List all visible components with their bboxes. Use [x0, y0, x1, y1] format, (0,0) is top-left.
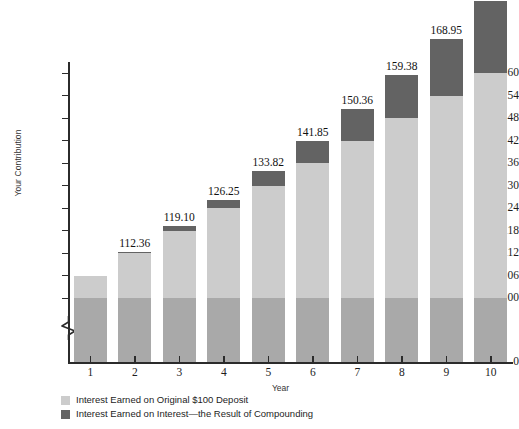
bar-year-7: 150.36 [341, 109, 374, 363]
bar-segment-compound-interest [341, 109, 374, 140]
x-tick-mark [312, 356, 313, 363]
legend-swatch-interest-on-deposit [61, 396, 70, 405]
x-tick-label: 5 [248, 367, 288, 379]
x-axis-title: Year [0, 383, 519, 393]
bar-year-5: 133.82 [252, 171, 285, 363]
legend-swatch-compound-interest [61, 410, 70, 419]
x-tick-label: 3 [159, 367, 199, 379]
bar-year-3: 119.10 [163, 226, 196, 363]
x-tick-mark [268, 356, 269, 363]
bar-value-label: 168.95 [430, 25, 462, 37]
bar-segment-interest-on-deposit [430, 96, 463, 299]
x-tick-label: 4 [204, 367, 244, 379]
x-tick-label: 2 [115, 367, 155, 379]
bar-year-8: 159.38 [385, 75, 418, 363]
bar-year-9: 168.95 [430, 39, 463, 363]
bar-segment-interest-on-deposit [163, 231, 196, 299]
bar-segment-principal [385, 298, 418, 363]
plot-area: 112.36119.10126.25133.82141.85150.36159.… [68, 62, 513, 363]
bar-segment-principal [74, 298, 107, 363]
bar-segment-compound-interest [474, 1, 507, 73]
bar-year-1 [74, 276, 107, 364]
bar-segment-interest-on-deposit [385, 118, 418, 298]
y-axis-title: Your Contribution [13, 103, 23, 223]
legend-item-compound-interest: Interest Earned on Interest—the Result o… [61, 407, 313, 421]
bar-year-4: 126.25 [207, 200, 240, 363]
x-tick-mark [490, 356, 491, 363]
x-tick-mark [90, 356, 91, 363]
bar-segment-compound-interest [163, 226, 196, 230]
bar-segment-interest-on-deposit [252, 186, 285, 299]
bar-segment-interest-on-deposit [296, 163, 329, 298]
x-tick-label: 8 [382, 367, 422, 379]
bar-value-label: 159.38 [386, 61, 418, 73]
bar-segment-principal [474, 298, 507, 363]
bar-year-10: 179.08 [474, 1, 507, 363]
x-tick-mark [446, 356, 447, 363]
bar-value-label: 126.25 [208, 186, 240, 198]
x-tick-label: 1 [70, 367, 110, 379]
bar-year-2: 112.36 [118, 252, 151, 363]
bar-segment-compound-interest [296, 141, 329, 163]
bar-segment-principal [430, 298, 463, 363]
bar-segment-compound-interest [207, 200, 240, 208]
bar-segment-interest-on-deposit [74, 276, 107, 299]
bar-segment-compound-interest [252, 171, 285, 185]
legend-label-interest-on-deposit: Interest Earned on Original $100 Deposit [76, 395, 248, 405]
bar-segment-principal [341, 298, 374, 363]
bar-value-label: 112.36 [119, 238, 150, 250]
x-tick-label: 10 [471, 367, 511, 379]
bar-segment-principal [163, 298, 196, 363]
bar-segment-compound-interest [118, 252, 151, 253]
bar-segment-compound-interest [385, 75, 418, 118]
x-tick-mark [134, 356, 135, 363]
bar-value-label: 133.82 [252, 157, 284, 169]
legend-label-compound-interest: Interest Earned on Interest—the Result o… [76, 409, 313, 419]
bar-value-label: 141.85 [297, 127, 329, 139]
bar-segment-principal [296, 298, 329, 363]
legend-item-interest-on-deposit: Interest Earned on Original $100 Deposit [61, 393, 313, 407]
bar-segment-principal [252, 298, 285, 363]
x-tick-mark [357, 356, 358, 363]
bar-segment-interest-on-deposit [474, 73, 507, 298]
bar-value-label: 119.10 [164, 212, 195, 224]
bar-segment-principal [118, 298, 151, 363]
bar-value-label: 150.36 [341, 95, 373, 107]
bar-year-6: 141.85 [296, 141, 329, 363]
x-tick-label: 7 [337, 367, 377, 379]
x-tick-mark [401, 356, 402, 363]
compound-interest-chart: Your Contribution $160154148142136130124… [0, 0, 519, 429]
bar-segment-interest-on-deposit [118, 253, 151, 298]
x-tick-mark [179, 356, 180, 363]
bar-segment-compound-interest [430, 39, 463, 95]
bar-segment-interest-on-deposit [207, 208, 240, 298]
bar-segment-principal [207, 298, 240, 363]
legend: Interest Earned on Original $100 Deposit… [61, 393, 313, 421]
x-tick-label: 9 [426, 367, 466, 379]
x-tick-mark [223, 356, 224, 363]
bar-segment-interest-on-deposit [341, 141, 374, 299]
x-tick-label: 6 [293, 367, 333, 379]
